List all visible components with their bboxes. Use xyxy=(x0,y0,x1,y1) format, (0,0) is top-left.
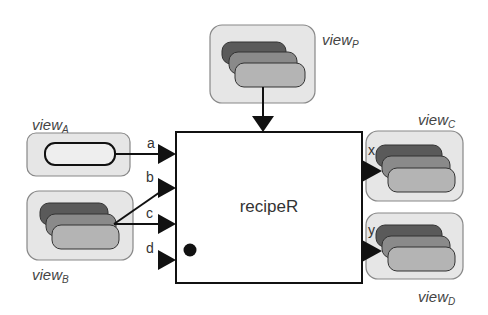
arrow-top-input-icon xyxy=(252,116,274,132)
view-a-label: viewA xyxy=(32,116,69,135)
recipe-block-label: recipeR xyxy=(240,197,299,216)
view-d-item-light xyxy=(388,247,455,271)
port-b-label: b xyxy=(146,169,154,185)
view-b-label: viewB xyxy=(32,266,69,285)
port-a-label: a xyxy=(147,135,155,151)
state-dot-icon xyxy=(184,244,197,257)
view-b: viewB xyxy=(27,191,133,285)
port-c-label: c xyxy=(146,205,153,221)
arrow-input-a-icon xyxy=(158,144,176,164)
view-d-label: viewD xyxy=(418,288,455,307)
diagram-canvas: viewP recipeR viewA viewB a b c d viewC xyxy=(0,0,488,315)
port-x-label: x xyxy=(368,142,375,158)
arrow-input-c-icon xyxy=(158,214,176,234)
view-p: viewP xyxy=(210,25,359,103)
view-d: viewD xyxy=(366,213,463,307)
view-c-item-light xyxy=(388,168,455,192)
view-p-item-light xyxy=(235,63,305,87)
view-c: viewC xyxy=(366,111,463,201)
port-d-label: d xyxy=(146,240,154,256)
view-c-label: viewC xyxy=(418,111,456,130)
port-y-label: y xyxy=(368,222,375,238)
arrow-input-d-icon xyxy=(158,250,176,270)
view-a: viewA xyxy=(27,116,130,176)
view-a-item xyxy=(45,143,115,165)
view-b-item-light xyxy=(52,225,119,249)
arrow-input-b-icon xyxy=(158,178,176,198)
view-p-label: viewP xyxy=(322,31,359,50)
